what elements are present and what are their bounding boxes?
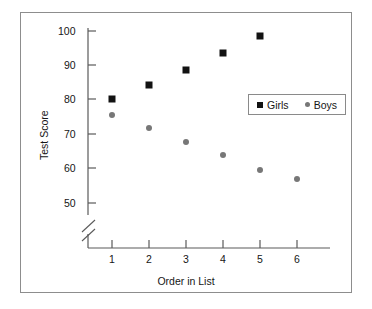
data-point-boys-3 (183, 139, 189, 145)
x-tick-label-2: 2 (146, 253, 152, 265)
x-tick-label-3: 3 (183, 253, 189, 265)
legend-entry-boys: Boys (305, 99, 337, 111)
legend-label-boys: Boys (314, 99, 337, 111)
y-tick-label-100: 100 (58, 25, 76, 37)
data-point-boys-2 (146, 125, 152, 131)
data-point-girls-5 (257, 33, 264, 40)
data-point-girls-4 (220, 50, 227, 57)
data-point-boys-5 (257, 167, 263, 173)
data-point-boys-1 (109, 112, 115, 118)
legend-square-icon (257, 102, 263, 108)
x-tick-label-5: 5 (257, 253, 263, 265)
y-tick-label-50: 50 (64, 197, 76, 209)
data-point-girls-2 (146, 82, 153, 89)
y-axis-title: Test Score (38, 110, 50, 160)
legend-label-girls: Girls (267, 99, 289, 111)
y-tick-label-70: 70 (64, 128, 76, 140)
y-tick-label-60: 60 (64, 162, 76, 174)
legend-circle-icon (305, 102, 310, 107)
data-point-boys-4 (220, 152, 226, 158)
x-axis-title: Order in List (0, 275, 372, 287)
scatter-plot: 100 90 80 70 60 50 1 2 3 4 5 6 Test Scor… (0, 0, 372, 309)
data-point-girls-3 (183, 67, 190, 74)
y-tick-label-90: 90 (64, 59, 76, 71)
x-tick-label-6: 6 (294, 253, 300, 265)
data-point-girls-1 (109, 96, 116, 103)
x-tick-label-1: 1 (109, 253, 115, 265)
x-tick-label-4: 4 (220, 253, 226, 265)
legend: Girls Boys (248, 94, 346, 115)
y-tick-label-80: 80 (64, 93, 76, 105)
data-point-boys-6 (294, 176, 300, 182)
legend-entry-girls: Girls (257, 99, 289, 111)
